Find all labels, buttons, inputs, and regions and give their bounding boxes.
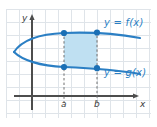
point-b-upper xyxy=(94,29,100,35)
curve-label-f: y = f(x) xyxy=(104,18,144,28)
y-axis-label: y xyxy=(22,14,27,23)
shaded-area xyxy=(64,32,97,68)
x-axis-arrowhead xyxy=(133,93,139,98)
area-between-curves-figure: y x a b y = f(x) y = g(x) xyxy=(0,0,157,127)
tick-label-b: b xyxy=(94,100,100,109)
point-a-lower xyxy=(61,64,67,70)
curve-label-g: y = g(x) xyxy=(104,68,146,78)
point-a-upper xyxy=(61,30,67,36)
point-b-lower xyxy=(94,65,100,71)
y-axis-arrowhead xyxy=(29,14,34,20)
tick-label-a: a xyxy=(61,100,67,109)
x-axis-label: x xyxy=(140,100,145,109)
